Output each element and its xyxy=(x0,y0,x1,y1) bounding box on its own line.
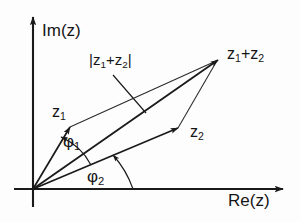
angle-label-phi1-sub: 1 xyxy=(74,140,80,152)
sum-label-mid: +z xyxy=(241,45,258,62)
magnitude-sub-1: 1 xyxy=(100,59,106,70)
magnitude-suffix: | xyxy=(128,51,132,68)
imaginary-axis-label-text: Im(z) xyxy=(42,21,81,40)
sum-label-sub-1: 1 xyxy=(235,52,241,64)
vector-label-z1-sub: 1 xyxy=(60,110,66,122)
vector-label-z2-base: z xyxy=(190,123,198,140)
vector-label-z2-sub: 2 xyxy=(198,130,204,142)
imaginary-axis-label: Im(z) xyxy=(42,22,81,39)
magnitude-mid: +z xyxy=(106,51,122,68)
sum-label-sub-2: 2 xyxy=(258,52,264,64)
angle-label-phi1: φ1 xyxy=(63,133,80,150)
angle-label-phi2-symbol: φ xyxy=(87,167,98,186)
angle-label-phi1-symbol: φ xyxy=(63,132,74,151)
vector-label-z1-base: z xyxy=(52,103,60,120)
parallelogram-group xyxy=(70,61,217,128)
real-axis-label-text: Re(z) xyxy=(228,191,270,210)
angle-arc-phi2 xyxy=(113,155,133,189)
vector-label-z1-plus-z2: z1+z2 xyxy=(227,46,264,62)
vector-label-z1: z1 xyxy=(52,104,66,120)
complex-plane-figure: Im(z) Re(z) z1 z2 z1+z2 |z1+z2| φ1 φ2 xyxy=(0,0,300,222)
magnitude-leader-line xyxy=(113,75,146,113)
magnitude-label: |z1+z2| xyxy=(89,52,132,67)
real-axis-label: Re(z) xyxy=(228,192,270,209)
vector-z2 xyxy=(33,128,178,189)
sum-label-base-1: z xyxy=(227,45,235,62)
magnitude-prefix: |z xyxy=(89,51,100,68)
parallelogram-side-from-z2 xyxy=(178,62,217,129)
angle-label-phi2: φ2 xyxy=(87,168,104,185)
vector-label-z2: z2 xyxy=(190,124,204,140)
magnitude-sub-2: 2 xyxy=(122,59,128,70)
parallelogram-side-from-z1 xyxy=(70,61,216,127)
angle-label-phi2-sub: 2 xyxy=(98,175,104,187)
leader-line-group xyxy=(113,75,146,113)
